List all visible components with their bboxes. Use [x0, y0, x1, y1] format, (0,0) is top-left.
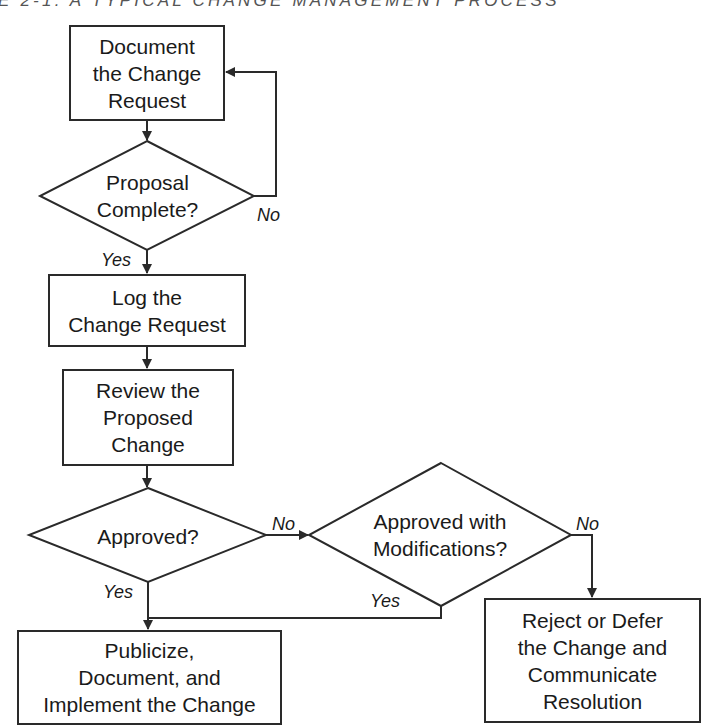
- node-text: Communicate: [528, 661, 658, 688]
- decision-proposal-complete-text: Proposal Complete?: [60, 167, 235, 225]
- decision-approved-text: Approved?: [68, 521, 228, 551]
- node-text: Request: [108, 87, 186, 114]
- node-text: Implement the Change: [43, 691, 255, 718]
- node-text: the Change and: [518, 634, 667, 661]
- node-text: Proposed: [103, 404, 193, 431]
- node-text: Proposal: [106, 169, 189, 196]
- node-text: Modifications?: [373, 535, 507, 562]
- edge-label-mods-yes: Yes: [370, 591, 400, 612]
- edge-label-mods-no: No: [576, 514, 599, 535]
- process-review-proposed-change: Review the Proposed Change: [62, 369, 234, 466]
- edge-label-proposal-no: No: [257, 205, 280, 226]
- node-text: Document: [99, 33, 195, 60]
- process-publicize-implement: Publicize, Document, and Implement the C…: [17, 630, 282, 725]
- process-log-change-request: Log the Change Request: [48, 274, 246, 347]
- process-document-change-request: Document the Change Request: [69, 25, 225, 121]
- node-text: Review the: [96, 377, 200, 404]
- node-text: Publicize,: [105, 637, 195, 664]
- node-text: Complete?: [97, 196, 199, 223]
- edge-label-approved-no: No: [272, 514, 295, 535]
- node-text: Document, and: [78, 664, 220, 691]
- edge-label-proposal-yes: Yes: [101, 250, 131, 271]
- decision-approved-with-mods-text: Approved with Modifications?: [340, 506, 540, 564]
- node-text: Reject or Defer: [522, 607, 663, 634]
- node-text: Log the: [112, 284, 182, 311]
- edge-label-approved-yes: Yes: [103, 582, 133, 603]
- process-reject-or-defer: Reject or Defer the Change and Communica…: [484, 598, 701, 723]
- node-text: Resolution: [543, 688, 642, 715]
- node-text: Approved?: [97, 523, 199, 550]
- node-text: the Change: [93, 60, 202, 87]
- node-text: Approved with: [373, 508, 506, 535]
- node-text: Change: [111, 431, 185, 458]
- node-text: Change Request: [68, 311, 226, 338]
